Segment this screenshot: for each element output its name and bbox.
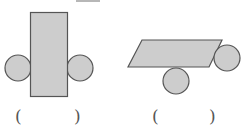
figure-2-right-circle (214, 45, 240, 71)
figure-1-rectangle (31, 13, 68, 97)
figure-1-answer-open-paren: ( (15, 108, 22, 125)
figure-2-bottom-circle (163, 68, 189, 94)
figure-1-right-circle (67, 55, 93, 81)
figure-2 (128, 40, 240, 94)
figure-1-answer-close-paren: ) (74, 108, 81, 125)
figure-2-answer-close-paren: ) (209, 108, 216, 125)
figure-2-answer-open-paren: ( (152, 108, 159, 125)
figure-1-left-circle (5, 55, 31, 81)
figure-2-parallelogram (128, 40, 222, 67)
figure-1 (5, 13, 93, 97)
